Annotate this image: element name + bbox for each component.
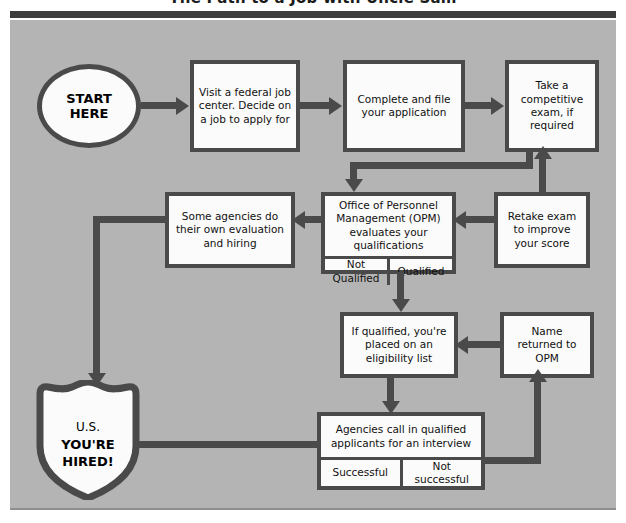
connector-eligibility-down (387, 376, 394, 404)
shield-icon (32, 380, 144, 500)
arrowhead-up-exam (534, 146, 552, 159)
title-divider (10, 11, 616, 18)
connector-retake-to-opm (466, 216, 496, 223)
connector-visit-to-complete (300, 102, 332, 109)
arrowhead-left-agencies (292, 211, 305, 229)
node-take-exam[interactable]: Take a competitive exam, if required (505, 60, 599, 152)
node-opm-evaluates[interactable]: Office of Personnel Management (OPM) eva… (321, 192, 456, 274)
node-visit-job-center[interactable]: Visit a federal job center. Decide on a … (190, 60, 300, 152)
connector-qualified-down (397, 272, 404, 302)
node-eligibility-list[interactable]: If qualified, you're placed on an eligib… (340, 312, 458, 378)
node-agencies-call[interactable]: Agencies call in qualified applicants fo… (317, 412, 485, 490)
node-complete-application[interactable]: Complete and file your application (343, 60, 465, 152)
node-some-agencies-label: Some agencies do their own evaluation an… (169, 196, 291, 264)
node-opm-outcomes: Not Qualified Qualified (325, 256, 452, 285)
node-interview-outcomes: Successful Not successful (321, 457, 481, 486)
node-interview-not-successful[interactable]: Not successful (400, 460, 482, 486)
node-visit-job-center-label: Visit a federal job center. Decide on a … (194, 64, 296, 148)
node-name-returned-label: Name returned to OPM (504, 316, 590, 374)
arrowhead-left-eligibility (455, 336, 468, 354)
arrowhead-right-visit (176, 97, 189, 115)
flowchart-page: The Path to a Job with Uncle Sam START H… (0, 0, 626, 523)
node-retake-exam[interactable]: Retake exam to improve your score (494, 192, 590, 268)
node-take-exam-label: Take a competitive exam, if required (509, 64, 595, 148)
arrowhead-down-eligibility (392, 299, 410, 312)
node-interview-successful[interactable]: Successful (321, 460, 400, 486)
page-title: The Path to a Job with Uncle Sam (0, 0, 626, 7)
connector-opm-to-agencies (303, 216, 323, 223)
node-eligibility-list-label: If qualified, you're placed on an eligib… (344, 316, 454, 374)
node-opm-evaluates-label: Office of Personnel Management (OPM) eva… (325, 196, 452, 256)
connector-agencies-down (93, 216, 100, 376)
arrowhead-right-exam (491, 97, 504, 115)
start-node[interactable]: START HERE (37, 64, 141, 148)
connector-agencies-left (93, 216, 167, 223)
node-name-returned[interactable]: Name returned to OPM (500, 312, 594, 378)
arrowhead-left-opm (453, 211, 466, 229)
connector-notsuccessful-up (534, 382, 541, 464)
arrowhead-up-name-returned (529, 369, 547, 382)
connector-notsuccessful-right (483, 457, 541, 464)
connector-start-to-visit (141, 102, 179, 109)
start-node-label: START HERE (66, 91, 112, 122)
node-retake-exam-label: Retake exam to improve your score (498, 196, 586, 264)
node-agencies-call-label: Agencies call in qualified applicants fo… (321, 416, 481, 457)
arrowhead-right-complete (329, 97, 342, 115)
node-some-agencies[interactable]: Some agencies do their own evaluation an… (165, 192, 295, 268)
connector-name-to-eligibility (468, 341, 502, 348)
node-complete-application-label: Complete and file your application (347, 64, 461, 148)
node-hired-shield[interactable]: U.S. YOU'RE HIRED! (32, 380, 144, 500)
node-opm-not-qualified[interactable]: Not Qualified (325, 259, 387, 285)
diagram-panel: START HERE Visit a federal job center. D… (10, 20, 616, 510)
connector-exam-left (350, 162, 533, 169)
connector-complete-to-exam (465, 102, 494, 109)
arrowhead-down-opm (345, 179, 363, 192)
